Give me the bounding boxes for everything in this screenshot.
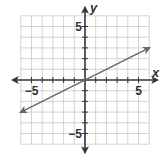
coordinate-plane: x y −5 5 5 −5	[0, 0, 165, 155]
y-tick-label-neg5: −5	[68, 127, 82, 141]
x-tick-label-5: 5	[135, 84, 142, 98]
x-tick-label-neg5: −5	[25, 84, 39, 98]
y-tick-label-5: 5	[75, 20, 82, 34]
x-axis-label: x	[151, 65, 160, 80]
y-axis-label: y	[89, 0, 98, 15]
